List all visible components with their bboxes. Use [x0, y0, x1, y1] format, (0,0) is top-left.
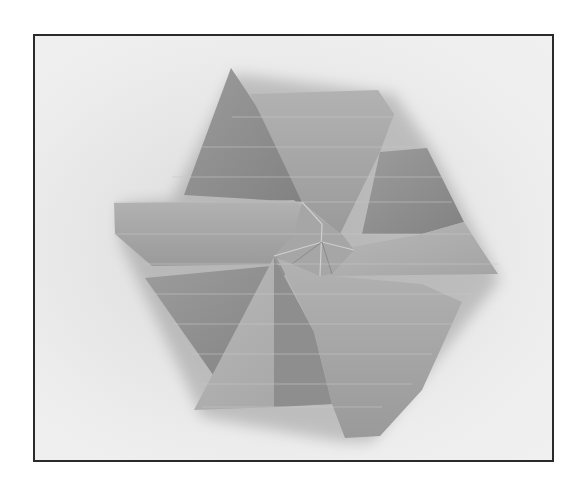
origami-photo — [35, 36, 552, 460]
photo-frame — [33, 34, 554, 462]
